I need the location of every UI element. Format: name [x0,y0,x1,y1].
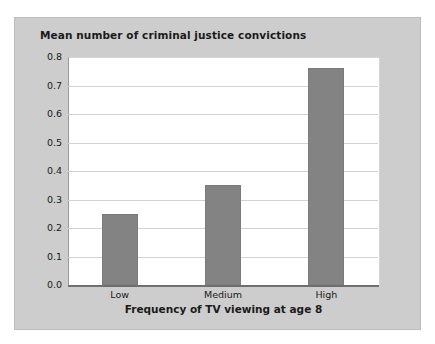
y-axis-tick-label: 0.8 [22,51,62,62]
chart-title: Mean number of criminal justice convicti… [40,29,306,41]
bar [308,68,344,285]
y-axis-tick-label: 0.0 [22,279,62,290]
figure: Mean number of criminal justice convicti… [0,0,435,344]
y-axis-tick-label: 0.3 [22,194,62,205]
x-axis-tick-label: High [276,289,376,300]
x-axis-tick-label: Low [70,289,170,300]
y-axis-tick-label: 0.2 [22,222,62,233]
y-axis-tick-label: 0.5 [22,137,62,148]
y-axis-tick-label: 0.1 [22,251,62,262]
y-axis-tick-label: 0.4 [22,165,62,176]
bar [102,214,138,285]
y-axis-tick-label: 0.6 [22,108,62,119]
x-axis-tick-label: Medium [173,289,273,300]
y-axis-tick-label: 0.7 [22,80,62,91]
x-axis-title: Frequency of TV viewing at age 8 [68,303,379,315]
x-axis-line [68,285,379,287]
bar [205,185,241,285]
